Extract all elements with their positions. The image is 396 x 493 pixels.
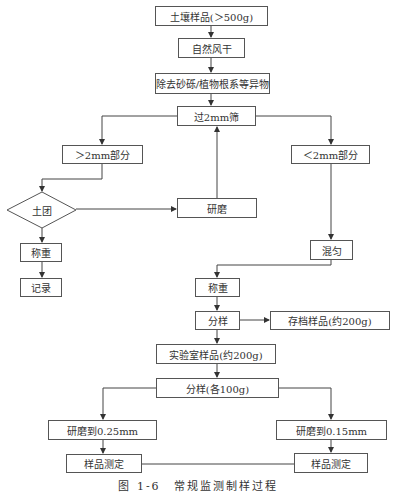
node-label: 研磨到0.25mm bbox=[67, 423, 138, 438]
node-subsample-each: 分样(各100g) bbox=[156, 378, 279, 398]
node-clod-decision: 土团 bbox=[7, 192, 77, 228]
arrow-sieve-to-gt2mm bbox=[102, 116, 177, 144]
node-label: 过2mm筛 bbox=[194, 109, 239, 124]
arrow-each-to-grind025 bbox=[103, 388, 156, 419]
node-soil-sample: 土壤样品(＞500g) bbox=[155, 6, 268, 26]
node-measure-right: 样品测定 bbox=[294, 453, 368, 473]
node-grind-025: 研磨到0.25mm bbox=[48, 420, 157, 440]
node-label: 土团 bbox=[32, 203, 52, 218]
arrow-mix-to-weigh bbox=[217, 260, 331, 277]
node-label: 除去砂砾/植物根系等异物 bbox=[156, 76, 269, 91]
node-record: 记录 bbox=[20, 278, 62, 297]
node-weigh-mid: 称重 bbox=[195, 278, 240, 297]
node-subsample: 分样 bbox=[195, 311, 240, 330]
arrow-sieve-to-lt2mm bbox=[256, 116, 331, 144]
node-grind-015: 研磨到0.15mm bbox=[276, 420, 387, 440]
node-label: ＜2mm部分 bbox=[303, 147, 358, 162]
node-weigh-left: 称重 bbox=[20, 243, 62, 262]
node-grind: 研磨 bbox=[177, 198, 257, 218]
node-label: 研磨 bbox=[207, 201, 227, 216]
node-label: 分样(各100g) bbox=[186, 381, 249, 396]
node-lt-2mm: ＜2mm部分 bbox=[291, 145, 370, 164]
node-air-dry: 自然风干 bbox=[178, 38, 245, 58]
node-label: 自然风干 bbox=[192, 41, 232, 56]
node-lab-sample: 实验室样品(约200g) bbox=[156, 344, 276, 364]
node-label: 土壤样品(＞500g) bbox=[170, 9, 253, 24]
arrow-each-to-grind015 bbox=[279, 388, 331, 419]
node-mix: 混匀 bbox=[310, 240, 353, 260]
figure-caption: 图 1-6 常规监测制样过程 bbox=[0, 477, 396, 493]
node-sieve-2mm: 过2mm筛 bbox=[177, 106, 256, 126]
node-label: 样品测定 bbox=[311, 456, 351, 471]
node-archive-sample: 存档样品(约200g) bbox=[270, 311, 390, 330]
node-label: 称重 bbox=[31, 245, 51, 260]
node-label: 记录 bbox=[31, 280, 51, 295]
node-label: 实验室样品(约200g) bbox=[169, 347, 262, 362]
node-label: 研磨到0.15mm bbox=[296, 423, 367, 438]
node-label: 混匀 bbox=[322, 243, 342, 258]
node-label: ＞2mm部分 bbox=[75, 147, 130, 162]
node-label: 样品测定 bbox=[84, 456, 124, 471]
node-gt-2mm: ＞2mm部分 bbox=[62, 145, 143, 164]
node-label: 称重 bbox=[208, 280, 228, 295]
node-measure-left: 样品测定 bbox=[66, 454, 142, 473]
node-remove-debris: 除去砂砾/植物根系等异物 bbox=[155, 73, 270, 94]
node-label: 分样 bbox=[208, 313, 228, 328]
arrow-gt2mm-to-clod bbox=[42, 164, 102, 191]
node-label: 存档样品(约200g) bbox=[288, 313, 371, 328]
